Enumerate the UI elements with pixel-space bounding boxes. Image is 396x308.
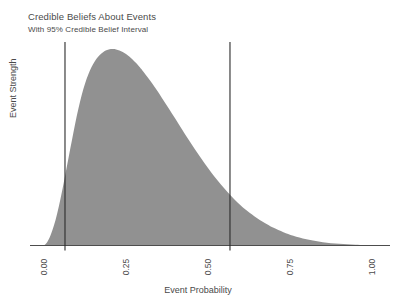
x-tick-label: 0.25 xyxy=(121,252,131,282)
x-tick-label: 0.50 xyxy=(203,252,213,282)
x-axis-title: Event Probability xyxy=(0,285,396,295)
y-axis-title: Event Strength xyxy=(8,58,18,118)
density-chart-figure: Credible Beliefs About Events With 95% C… xyxy=(0,0,396,308)
density-area-path xyxy=(44,49,372,246)
x-tick-label: 0.75 xyxy=(285,252,295,282)
x-tick-label: 1.00 xyxy=(367,252,377,282)
x-tick-label: 0.00 xyxy=(39,252,49,282)
plot-area xyxy=(0,0,396,308)
